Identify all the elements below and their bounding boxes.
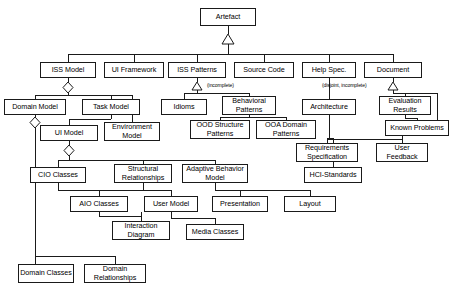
node-iss-model[interactable]: ISS Model: [40, 62, 96, 78]
node-interaction-diagram[interactable]: Interaction Diagram: [112, 221, 170, 240]
node-user-feedback[interactable]: User Feedback: [376, 143, 428, 162]
node-idioms[interactable]: Idioms: [161, 99, 207, 115]
node-structural-relationships[interactable]: Structural Relationships: [114, 164, 172, 183]
node-hci-standards[interactable]: HCI-Standards: [304, 167, 362, 183]
node-cio-classes[interactable]: CIO Classes: [30, 167, 86, 183]
node-help-spec[interactable]: Help Spec.: [302, 62, 356, 78]
node-environment-model[interactable]: Environment Model: [104, 122, 160, 141]
node-task-model[interactable]: Task Model: [82, 99, 140, 115]
node-domain-classes[interactable]: Domain Classes: [18, 264, 74, 283]
node-domain-model[interactable]: Domain Model: [4, 99, 66, 115]
node-ood-structure-patterns[interactable]: OOD Structure Patterns: [190, 120, 250, 139]
node-evaluation-results[interactable]: Evaluation Results: [379, 96, 431, 115]
node-architecture[interactable]: Architecture: [302, 99, 356, 115]
node-user-model[interactable]: User Model: [144, 196, 198, 212]
node-source-code[interactable]: Source Code: [234, 62, 294, 78]
node-ui-model[interactable]: UI Model: [40, 125, 98, 141]
annotation-disjoint-incomplete: (disjoint, incomplete): [322, 82, 367, 88]
annotation-incomplete: (incomplete): [207, 82, 234, 88]
node-media-classes[interactable]: Media Classes: [186, 224, 244, 240]
node-layout[interactable]: Layout: [284, 196, 336, 212]
node-presentation[interactable]: Presentation: [212, 196, 268, 212]
node-ooa-domain-patterns[interactable]: OOA Domain Patterns: [256, 120, 316, 139]
node-domain-relationships[interactable]: Domain Relationships: [84, 264, 146, 283]
node-artefact[interactable]: Artefact: [200, 8, 256, 26]
node-ui-framework[interactable]: UI Framework: [104, 62, 164, 78]
node-behavioral-patterns[interactable]: Behavioral Patterns: [222, 96, 276, 115]
node-requirements-specification[interactable]: Requirements Specification: [296, 143, 358, 162]
node-adaptive-behavior-model[interactable]: Adaptive Behavior Model: [182, 164, 248, 183]
uml-class-diagram: Artefact ISS Model UI Framework ISS Patt…: [0, 0, 458, 296]
node-iss-patterns[interactable]: ISS Patterns: [168, 62, 226, 78]
node-aio-classes[interactable]: AIO Classes: [70, 196, 128, 212]
node-document[interactable]: Document: [364, 62, 422, 78]
node-known-problems[interactable]: Known Problems: [385, 120, 449, 136]
